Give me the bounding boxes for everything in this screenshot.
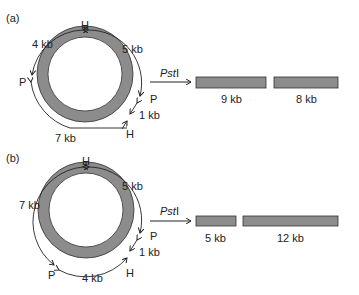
- site-h-bottom-a: H: [126, 128, 134, 140]
- panel-a: (a) H P P H 4 kb 5 kb 1 kb 7 kb PstI 9 k…: [6, 12, 338, 144]
- site-h-bottom-b: H: [126, 267, 134, 279]
- fragment-label-5kb-b: 5 kb: [205, 232, 226, 244]
- site-p-right-a: P: [150, 93, 157, 105]
- segment-1kb-b: 1 kb: [139, 246, 160, 258]
- site-p-left-a: P: [19, 76, 26, 88]
- enzyme-label-a: PstI: [160, 67, 179, 79]
- site-p-right-b: P: [150, 230, 157, 242]
- arc-1kb-a: [130, 103, 137, 114]
- segment-7kb-b: 7 kb: [19, 199, 40, 211]
- segment-4kb-b: 4 kb: [82, 272, 103, 284]
- fragment-label-9kb-a: 9 kb: [221, 93, 242, 105]
- panel-b-label: (b): [6, 152, 19, 164]
- arc-1kb-b: [130, 240, 137, 251]
- enzyme-label-b: PstI: [160, 205, 179, 217]
- segment-4kb-a: 4 kb: [32, 38, 53, 50]
- fragment-9kb-a: [196, 77, 266, 88]
- fragment-12kb-b: [243, 216, 338, 226]
- fragment-label-8kb-a: 8 kb: [296, 93, 317, 105]
- restriction-map-diagram: (a) H P P H 4 kb 5 kb 1 kb 7 kb PstI 9 k…: [0, 0, 359, 295]
- segment-5kb-b: 5 kb: [122, 180, 143, 192]
- fragment-label-12kb-b: 12 kb: [277, 232, 304, 244]
- site-h-top-a: H: [81, 19, 89, 31]
- panel-a-label: (a): [6, 12, 19, 24]
- segment-5kb-a: 5 kb: [122, 43, 143, 55]
- fragment-5kb-b: [196, 216, 236, 226]
- segment-1kb-a: 1 kb: [139, 109, 160, 121]
- panel-b: (b) H P P H 7 kb 5 kb 1 kb 4 kb PstI 5 k…: [6, 152, 338, 284]
- plasmid-ring-b: [38, 162, 134, 258]
- site-p-bottom-b: P: [48, 269, 55, 281]
- site-h-top-b: H: [82, 155, 90, 167]
- segment-7kb-a: 7 kb: [55, 132, 76, 144]
- fragment-8kb-a: [274, 77, 338, 88]
